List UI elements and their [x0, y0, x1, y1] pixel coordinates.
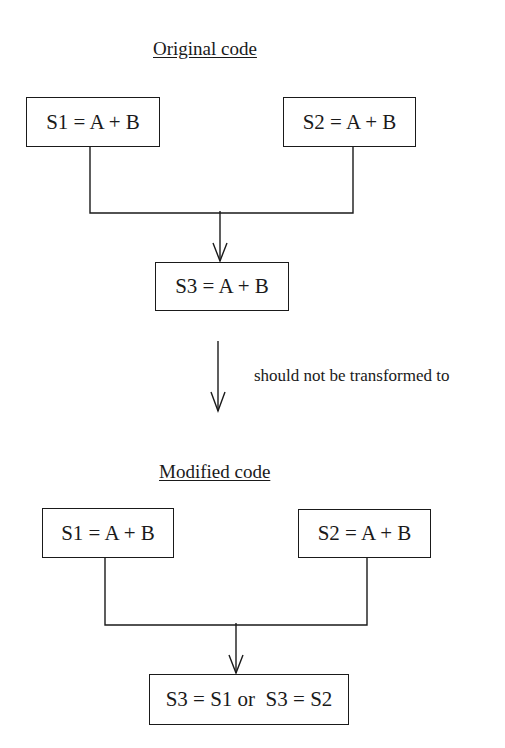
original-s2-box: S2 = A + B — [283, 97, 416, 147]
transition-label: should not be transformed to — [254, 366, 449, 386]
modified-s3-box: S3 = S1 or S3 = S2 — [149, 674, 349, 725]
modified-s1-box: S1 = A + B — [42, 508, 174, 558]
top-merge-connector — [90, 147, 353, 213]
bottom-merge-connector — [105, 558, 367, 625]
original-s1-box: S1 = A + B — [26, 97, 160, 147]
original-code-title: Original code — [153, 38, 257, 60]
original-s3-box: S3 = A + B — [155, 262, 289, 311]
modified-s2-box: S2 = A + B — [298, 509, 431, 558]
modified-code-title: Modified code — [159, 461, 270, 483]
